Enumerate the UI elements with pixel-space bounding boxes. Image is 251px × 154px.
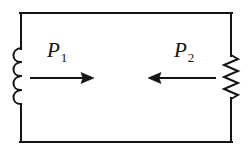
power-label-p2-base: P	[174, 38, 187, 62]
inductor-loop-4	[14, 90, 22, 104]
circuit-diagram-figure: P1 P2	[0, 0, 251, 154]
power-label-p2: P2	[174, 40, 194, 64]
circuit-diagram-canvas	[0, 0, 251, 154]
power-label-p2-subscript: 2	[187, 50, 195, 65]
inductor-loop-2	[14, 62, 22, 76]
power-label-p1: P1	[47, 40, 67, 64]
arrow-p2	[148, 73, 216, 84]
inductor-coil-icon	[14, 48, 22, 104]
inductor-loop-1	[14, 48, 22, 62]
inductor-loop-3	[14, 76, 22, 90]
resistor-zigzag-path	[224, 55, 238, 99]
arrow-right-icon	[81, 73, 94, 84]
arrow-p1	[30, 73, 94, 84]
power-label-p1-subscript: 1	[60, 50, 68, 65]
arrow-left-icon	[148, 73, 161, 84]
power-label-p1-base: P	[47, 38, 60, 62]
resistor-zigzag-icon	[224, 55, 238, 99]
